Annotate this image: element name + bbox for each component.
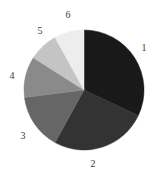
pie-slice-group (24, 30, 144, 150)
pie-slice-label-5: 5 (33, 26, 47, 36)
pie-chart-svg (0, 0, 158, 184)
pie-slice-label-1: 1 (137, 43, 151, 53)
pie-slice-label-4: 4 (5, 71, 19, 81)
pie-slice-label-6: 6 (61, 10, 75, 20)
pie-slice-label-3: 3 (16, 131, 30, 141)
page-root: 1 2 3 4 5 6 (0, 0, 158, 184)
pie-chart-figure: 1 2 3 4 5 6 (0, 0, 158, 184)
pie-slice-label-2: 2 (86, 159, 100, 169)
